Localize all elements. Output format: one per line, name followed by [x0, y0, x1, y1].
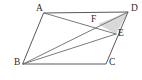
- segment-BE: [23, 34, 116, 64]
- vertex-label-D: D: [131, 3, 138, 13]
- vertex-label-C: C: [109, 57, 115, 67]
- vertex-label-A: A: [36, 3, 43, 13]
- diagonal-BD: [23, 12, 128, 64]
- vertex-label-F: F: [91, 14, 96, 24]
- vertex-label-B: B: [14, 57, 20, 67]
- geometry-canvas: A B C D E F: [0, 0, 142, 80]
- geometry-figure: A B C D E F: [0, 0, 142, 80]
- vertex-label-E: E: [118, 28, 124, 38]
